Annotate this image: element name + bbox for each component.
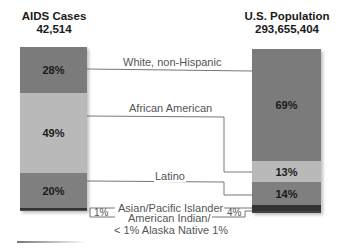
label-american-indian: American Indian/ (127, 212, 212, 224)
label-white-non-hispanic: White, non-Hispanic (122, 56, 222, 68)
pop-asian-value: 4% (227, 207, 241, 218)
bottom-rule (17, 241, 87, 243)
label-african-american: African American (128, 102, 213, 114)
aids-asian-value: 1% (94, 207, 108, 218)
label-latino: Latino (154, 170, 186, 182)
label-alaska-native: < 1% Alaska Native 1% (113, 224, 229, 236)
